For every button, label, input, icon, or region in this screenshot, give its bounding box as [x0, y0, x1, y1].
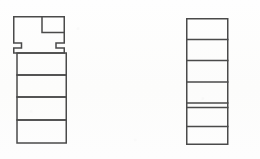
left-stacked-figure	[14, 17, 67, 143]
notched-head-block	[14, 17, 65, 53]
drawing-canvas	[0, 0, 260, 159]
line-drawing	[0, 0, 260, 159]
stack-cell	[17, 120, 66, 143]
stack-cell	[17, 53, 66, 75]
stack-cell	[17, 97, 66, 120]
corner-notch-icon	[42, 17, 64, 33]
right-ladder-figure	[187, 19, 228, 145]
stack-cell	[17, 75, 66, 97]
